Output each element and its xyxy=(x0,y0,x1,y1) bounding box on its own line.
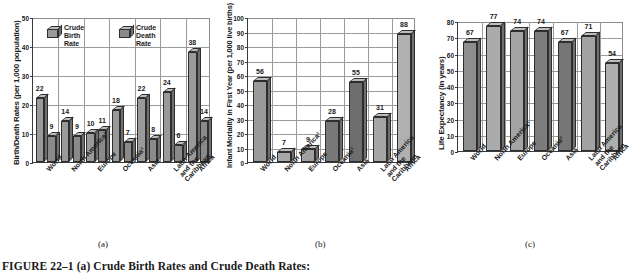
y-axis-tick-label: 30 xyxy=(447,100,454,107)
y-axis-tick-label: 0 xyxy=(25,160,29,167)
y-axis-tick-label: 60 xyxy=(237,73,244,80)
legend-label: Crude Birth Rate xyxy=(64,24,84,48)
y-axis-tick-mark xyxy=(455,38,458,39)
gridline xyxy=(33,47,210,48)
legend-swatch-front xyxy=(47,29,58,38)
y-axis-tick-mark xyxy=(455,103,458,104)
y-axis-tick-label: 60 xyxy=(447,51,454,58)
bar-value-label: 14 xyxy=(61,108,69,115)
bar-front xyxy=(486,26,500,151)
gridline xyxy=(248,91,415,92)
bar-front xyxy=(163,92,171,162)
bar-value-label: 18 xyxy=(112,97,120,104)
y-axis-tick-label: 90 xyxy=(237,29,244,36)
y-axis-tick-mark xyxy=(245,120,248,121)
chart-c-plot-area: 0102030405060708067777474677154 xyxy=(457,22,623,152)
bar-value-label: 22 xyxy=(138,85,146,92)
bar: 56 xyxy=(253,81,267,162)
sub-label-a: (a) xyxy=(98,239,108,249)
bar: 24 xyxy=(163,92,171,162)
y-axis-tick-mark xyxy=(245,18,248,19)
figure-caption: FIGURE 22–1 (a) Crude Birth Rates and Cr… xyxy=(2,260,310,272)
category-separator xyxy=(344,18,345,162)
bar-front xyxy=(463,42,477,151)
y-axis-tick-label: 70 xyxy=(447,35,454,42)
bar-value-label: 38 xyxy=(188,39,196,46)
sub-label-c: (c) xyxy=(525,239,535,249)
bar-value-label: 11 xyxy=(99,117,106,124)
y-axis-tick-label: 30 xyxy=(22,73,29,80)
y-axis-tick-label: 100 xyxy=(233,15,244,22)
bar-side xyxy=(572,38,576,151)
y-axis-tick-mark xyxy=(455,136,458,137)
bar-side xyxy=(596,31,600,151)
category-separator xyxy=(392,18,393,162)
chart-panel-a: Birth/Death Rates (per 1,000 population)… xyxy=(0,0,215,250)
y-axis-tick-label: 40 xyxy=(22,44,29,51)
bar-value-label: 8 xyxy=(151,126,155,133)
y-axis-tick-mark xyxy=(245,163,248,164)
bar-side xyxy=(267,76,271,162)
y-axis-tick-label: 30 xyxy=(237,116,244,123)
y-axis-tick-mark xyxy=(245,134,248,135)
bar-front xyxy=(253,81,267,162)
y-axis-tick-mark xyxy=(30,76,33,77)
legend-swatch-icon xyxy=(47,29,58,38)
bar-value-label: 55 xyxy=(352,69,360,76)
y-axis-tick-mark xyxy=(30,163,33,164)
category-separator xyxy=(600,22,601,151)
gridline xyxy=(248,47,415,48)
category-separator xyxy=(296,18,297,162)
y-axis-tick-mark xyxy=(455,120,458,121)
chart-panel-c: Life Expectancy (in years) 0102030405060… xyxy=(423,0,635,250)
y-axis-tick-label: 20 xyxy=(447,116,454,123)
bar-side xyxy=(477,38,481,151)
bar-value-label: 88 xyxy=(400,21,408,28)
bar: 77 xyxy=(486,26,500,151)
bar-value-label: 9 xyxy=(49,123,53,130)
chart-panel-b: Infant Mortality in First Year (per 1,00… xyxy=(215,0,423,250)
bar-value-label: 74 xyxy=(513,18,521,25)
sub-label-b: (b) xyxy=(315,239,326,249)
bar-value-label: 24 xyxy=(163,79,171,86)
y-axis-tick-mark xyxy=(455,152,458,153)
bar-value-label: 77 xyxy=(490,13,498,20)
y-axis-tick-label: 10 xyxy=(447,132,454,139)
y-axis-tick-mark xyxy=(245,47,248,48)
bar-value-label: 31 xyxy=(376,104,384,111)
y-axis-tick-mark xyxy=(245,149,248,150)
y-axis-tick-label: 80 xyxy=(447,19,454,26)
bar-value-label: 7 xyxy=(126,129,130,136)
bar: 31 xyxy=(373,117,387,162)
bar-front xyxy=(534,31,548,151)
chart-a-y-axis-title: Birth/Death Rates (per 1,000 population) xyxy=(12,21,21,165)
bar-value-label: 28 xyxy=(328,108,336,115)
y-axis-tick-label: 0 xyxy=(450,149,454,156)
y-axis-tick-mark xyxy=(455,87,458,88)
y-axis-tick-label: 40 xyxy=(447,84,454,91)
y-axis-tick-mark xyxy=(30,47,33,48)
y-axis-tick-label: 0 xyxy=(240,160,244,167)
y-axis-tick-label: 10 xyxy=(237,145,244,152)
category-separator xyxy=(272,18,273,162)
category-separator xyxy=(529,22,530,151)
gridline xyxy=(33,76,210,77)
y-axis-tick-mark xyxy=(455,22,458,23)
bar-value-label: 10 xyxy=(87,120,95,127)
bar: 67 xyxy=(463,42,477,151)
y-axis-tick-mark xyxy=(245,76,248,77)
y-axis-tick-mark xyxy=(245,62,248,63)
y-axis-tick-mark xyxy=(455,71,458,72)
chart-a-plot-area: 0102030405022914910111872282463814 xyxy=(32,18,210,163)
y-axis-tick-mark xyxy=(30,18,33,19)
chart-b-plot-area: 0102030405060708090100567928553188 xyxy=(247,18,415,163)
bar-value-label: 67 xyxy=(466,29,474,36)
legend-swatch-icon xyxy=(119,29,130,38)
y-axis-tick-mark xyxy=(30,134,33,135)
gridline xyxy=(248,105,415,106)
y-axis-tick-label: 70 xyxy=(237,58,244,65)
y-axis-tick-label: 20 xyxy=(22,102,29,109)
y-axis-tick-mark xyxy=(245,105,248,106)
bar: 22 xyxy=(36,98,44,162)
category-separator xyxy=(320,18,321,162)
